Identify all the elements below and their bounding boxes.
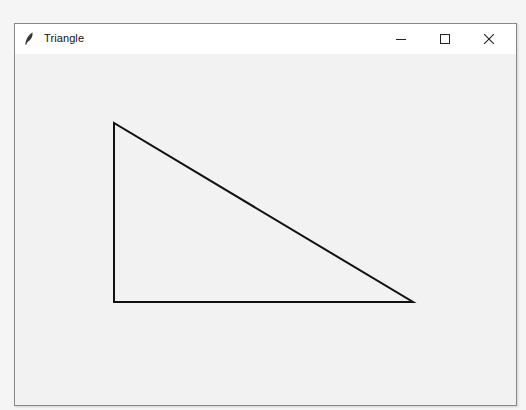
minimize-button[interactable] bbox=[379, 24, 423, 54]
app-window: Triangle bbox=[14, 23, 517, 406]
feather-icon bbox=[24, 32, 34, 46]
minimize-icon bbox=[396, 30, 406, 48]
title-bar[interactable]: Triangle bbox=[15, 24, 516, 54]
desktop: Triangle bbox=[0, 0, 526, 410]
maximize-icon bbox=[440, 30, 450, 48]
window-title: Triangle bbox=[44, 32, 84, 44]
triangle-drawing bbox=[15, 54, 516, 405]
drawing-canvas[interactable] bbox=[15, 54, 516, 405]
triangle-shape bbox=[114, 123, 413, 302]
close-icon bbox=[484, 30, 494, 48]
maximize-button[interactable] bbox=[423, 24, 467, 54]
close-button[interactable] bbox=[467, 24, 511, 54]
